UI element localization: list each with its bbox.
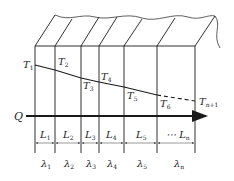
svg-text:λ4: λ4 <box>106 158 117 170</box>
svg-text:T3: T3 <box>83 80 94 92</box>
svg-text:T6: T6 <box>160 98 171 110</box>
svg-text:λ1: λ1 <box>40 158 51 170</box>
temperature-labels: T1 T2 T3 T4 T5 T6 Tn+1 <box>23 56 218 110</box>
svg-text:⋯ Ln: ⋯ Ln <box>166 129 190 141</box>
svg-text:L4: L4 <box>105 129 117 141</box>
svg-text:λ3: λ3 <box>85 158 96 170</box>
wall-top-face <box>35 15 220 48</box>
svg-text:T5: T5 <box>127 90 138 102</box>
conductivity-labels: λ1 λ2 λ3 λ4 λ5 λn <box>40 158 184 170</box>
svg-text:T2: T2 <box>58 56 69 68</box>
svg-text:Tn+1: Tn+1 <box>199 96 218 108</box>
svg-text:λ2: λ2 <box>63 158 74 170</box>
svg-text:T1: T1 <box>23 59 34 71</box>
temperature-profile <box>35 65 157 95</box>
heat-flow-label: Q <box>14 110 23 123</box>
svg-text:L3: L3 <box>84 129 96 141</box>
thickness-labels: L1 L2 L3 L4 L5 ⋯ Ln <box>39 129 190 141</box>
svg-text:T4: T4 <box>101 71 112 83</box>
svg-text:L2: L2 <box>62 129 74 141</box>
svg-text:L1: L1 <box>39 129 50 141</box>
svg-text:λ5: λ5 <box>136 158 147 170</box>
svg-text:L5: L5 <box>135 129 147 141</box>
svg-text:λn: λn <box>173 158 184 170</box>
wall-diagram: Q T1 T2 T3 T4 T5 T6 Tn+1 L1 L2 L3 L4 L5 … <box>0 0 234 181</box>
